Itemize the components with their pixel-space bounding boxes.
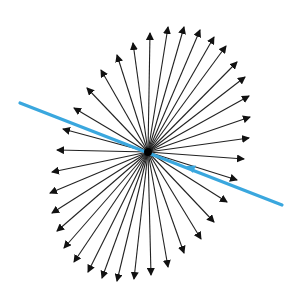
vector-arrow — [52, 152, 148, 213]
diagram-canvas — [0, 0, 298, 291]
center-hub — [144, 148, 152, 156]
vector-arrow — [148, 27, 168, 152]
vector-arrow — [57, 150, 148, 152]
vector-arrow — [117, 152, 148, 281]
vector-arrow — [148, 96, 249, 152]
vector-arrow — [50, 152, 148, 193]
vector-arrow — [148, 152, 151, 275]
vector-arrow — [133, 43, 148, 152]
vector-arrow — [148, 33, 150, 152]
vector-arrow — [117, 55, 148, 152]
vector-burst-diagram — [0, 0, 298, 291]
vector-arrow — [88, 152, 148, 272]
vector-arrow — [148, 117, 250, 152]
vector-arrow — [101, 70, 148, 152]
vector-arrow — [148, 30, 200, 152]
